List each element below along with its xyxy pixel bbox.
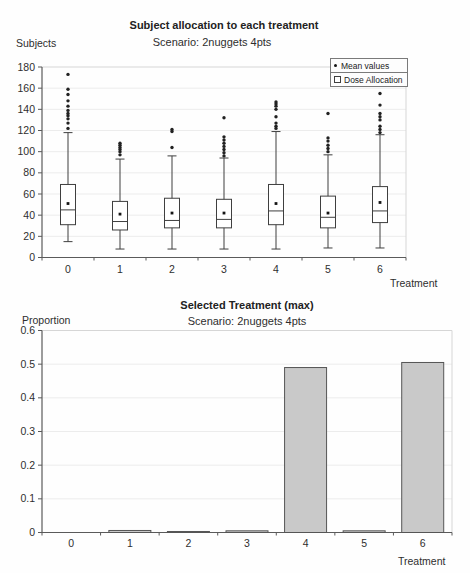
outlier-point bbox=[222, 138, 225, 141]
y-tick-label: 0 bbox=[29, 526, 35, 538]
x-tick-label: 6 bbox=[377, 263, 383, 275]
outlier-point bbox=[66, 99, 69, 102]
legend-label-mean-values: Mean values bbox=[341, 61, 389, 71]
outlier-point bbox=[66, 117, 69, 120]
x-tick-label: 2 bbox=[186, 537, 192, 549]
boxplot-treatment-1 bbox=[113, 142, 128, 250]
outlier-point bbox=[274, 121, 277, 124]
x-tick-label: 0 bbox=[68, 537, 74, 549]
boxplot-treatment-3 bbox=[217, 116, 232, 249]
y-tick-label: 0.4 bbox=[20, 391, 35, 403]
bar-y-axis-label: Proportion bbox=[22, 314, 70, 326]
subject-allocation-plot: 0204060801001201401601800123456 bbox=[17, 61, 406, 276]
mean-marker bbox=[119, 213, 122, 216]
boxplot-treatment-5 bbox=[321, 112, 336, 248]
outlier-point bbox=[170, 146, 173, 149]
y-tick-label: 160 bbox=[17, 82, 35, 94]
x-tick-label: 2 bbox=[169, 263, 175, 275]
bar-x-axis-label: Treatment bbox=[398, 555, 445, 567]
x-tick-label: 0 bbox=[65, 263, 71, 275]
boxplot-treatment-6 bbox=[373, 92, 388, 248]
outlier-point bbox=[66, 104, 69, 107]
outlier-point bbox=[66, 73, 69, 76]
y-tick-label: 60 bbox=[23, 188, 35, 200]
bar-treatment-1 bbox=[109, 530, 151, 532]
mean-marker bbox=[327, 212, 330, 215]
outlier-point bbox=[326, 144, 329, 147]
outlier-point bbox=[326, 136, 329, 139]
boxplot-x-axis-label: Treatment bbox=[390, 277, 437, 289]
outlier-point bbox=[274, 108, 277, 111]
dose-allocation-marker-icon bbox=[334, 76, 341, 83]
outlier-point bbox=[222, 135, 225, 138]
x-tick-label: 5 bbox=[361, 537, 367, 549]
outlier-point bbox=[378, 118, 381, 121]
boxplot-y-axis-label: Subjects bbox=[16, 37, 56, 49]
outlier-point bbox=[378, 128, 381, 131]
y-tick-label: 140 bbox=[17, 103, 35, 115]
x-tick-label: 1 bbox=[127, 537, 133, 549]
page: 020406080100120140160180012345600.10.20.… bbox=[0, 0, 470, 573]
legend: Mean values Dose Allocation bbox=[330, 58, 408, 87]
outlier-point bbox=[378, 125, 381, 128]
mean-marker bbox=[171, 212, 174, 215]
bar-chart-subtitle: Scenario: 2nuggets 4pts bbox=[42, 315, 452, 327]
outlier-point bbox=[66, 93, 69, 96]
y-tick-label: 20 bbox=[23, 230, 35, 242]
outlier-point bbox=[118, 153, 121, 156]
outlier-point bbox=[222, 145, 225, 148]
outlier-point bbox=[66, 112, 69, 115]
bar-treatment-2 bbox=[167, 531, 209, 532]
outlier-point bbox=[170, 128, 173, 131]
outlier-point bbox=[66, 127, 69, 130]
outlier-point bbox=[222, 148, 225, 151]
mean-marker-icon bbox=[334, 64, 337, 67]
boxplot-treatment-4 bbox=[269, 100, 284, 249]
outlier-point bbox=[222, 154, 225, 157]
bar-treatment-3 bbox=[226, 531, 268, 533]
outlier-point bbox=[274, 100, 277, 103]
y-tick-label: 0.2 bbox=[20, 459, 35, 471]
outlier-point bbox=[326, 112, 329, 115]
outlier-point bbox=[326, 139, 329, 142]
x-tick-label: 1 bbox=[117, 263, 123, 275]
bar-treatment-4 bbox=[285, 368, 327, 533]
x-tick-label: 5 bbox=[325, 263, 331, 275]
outlier-point bbox=[378, 131, 381, 134]
bar-treatment-6 bbox=[402, 362, 444, 532]
outlier-point bbox=[274, 115, 277, 118]
y-tick-label: 100 bbox=[17, 145, 35, 157]
x-tick-label: 4 bbox=[303, 537, 309, 549]
outlier-point bbox=[326, 147, 329, 150]
boxplot-treatment-2 bbox=[165, 128, 180, 249]
bar-treatment-5 bbox=[343, 531, 385, 533]
outlier-point bbox=[66, 88, 69, 91]
outlier-point bbox=[378, 112, 381, 115]
outlier-point bbox=[222, 151, 225, 154]
boxplot-chart-subtitle: Scenario: 2nuggets 4pts bbox=[42, 36, 382, 48]
y-tick-label: 40 bbox=[23, 209, 35, 221]
outlier-point bbox=[274, 125, 277, 128]
mean-marker bbox=[379, 201, 382, 204]
outlier-point bbox=[222, 142, 225, 145]
boxplot-treatment-0 bbox=[61, 73, 76, 242]
y-tick-label: 0 bbox=[29, 251, 35, 263]
legend-label-dose-allocation: Dose Allocation bbox=[344, 75, 403, 85]
y-tick-label: 180 bbox=[17, 61, 35, 73]
outlier-point bbox=[378, 115, 381, 118]
bar-chart-title: Selected Treatment (max) bbox=[42, 299, 452, 311]
mean-marker bbox=[67, 202, 70, 205]
x-tick-label: 6 bbox=[420, 537, 426, 549]
outlier-point bbox=[66, 109, 69, 112]
mean-marker bbox=[275, 202, 278, 205]
y-tick-label: 0.1 bbox=[20, 492, 35, 504]
legend-item-dose-allocation: Dose Allocation bbox=[331, 72, 407, 86]
outlier-point bbox=[66, 121, 69, 124]
y-tick-label: 80 bbox=[23, 166, 35, 178]
selected-treatment-plot: 00.10.20.30.40.50.60123456 bbox=[20, 324, 452, 549]
y-tick-label: 0.5 bbox=[20, 358, 35, 370]
outlier-point bbox=[118, 142, 121, 145]
y-tick-label: 0.3 bbox=[20, 425, 35, 437]
boxplot-chart-title: Subject allocation to each treatment bbox=[42, 19, 406, 31]
outlier-point bbox=[378, 103, 381, 106]
